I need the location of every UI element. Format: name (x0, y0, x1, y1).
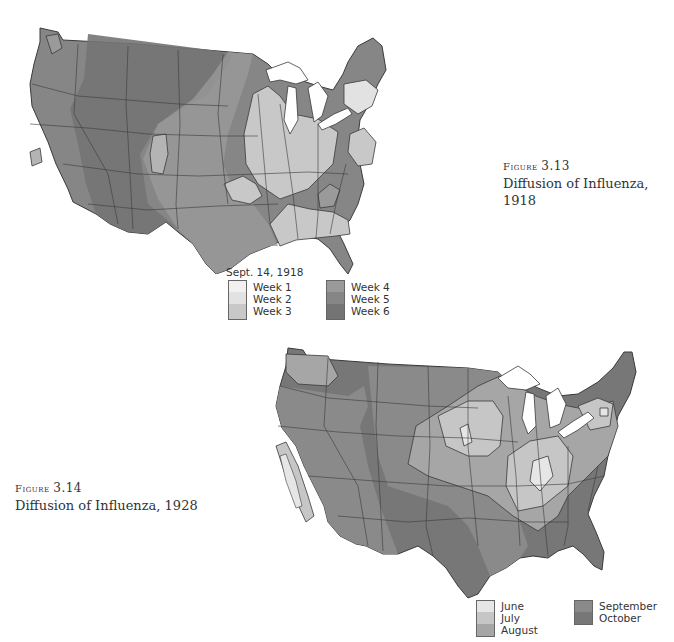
legend-1918: Sept. 14, 1918 Week 1 Week 2 Week 3 Week… (226, 266, 396, 318)
legend-label-october: October (599, 611, 641, 626)
figure-title: Diffusion of Influenza, 1928 (15, 497, 198, 514)
figure-label: Figure 3.14 (15, 480, 198, 497)
swatch-october (574, 612, 593, 625)
swatch-week-3 (228, 304, 247, 320)
swatch-july (476, 612, 495, 624)
figure-title: Diffusion of Influenza, 1918 (503, 175, 674, 209)
legend-1928: June July August September October (474, 600, 674, 642)
influenza-map-1928 (268, 346, 672, 600)
legend-title: Sept. 14, 1918 (226, 266, 396, 278)
figure-label: Figure 3.13 (503, 158, 674, 175)
swatch-week-6 (326, 304, 345, 320)
us-map-1918-svg (18, 24, 418, 274)
influenza-map-1918 (18, 24, 418, 274)
swatch-august (476, 624, 495, 637)
legend-label-week-6: Week 6 (351, 304, 390, 319)
us-map-1928-svg (268, 346, 672, 600)
legend-label-august: August (501, 623, 538, 638)
legend-label-week-3: Week 3 (253, 304, 292, 319)
figure-caption-3-13: Figure 3.13 Diffusion of Influenza, 1918 (503, 158, 674, 209)
figure-caption-3-14: Figure 3.14 Diffusion of Influenza, 1928 (15, 480, 198, 514)
